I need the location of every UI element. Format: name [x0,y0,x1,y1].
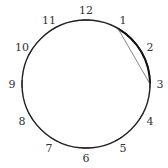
chord-1-to-3 [118,29,150,84]
hour-label-5: 5 [120,142,127,155]
tick-1 [115,27,122,31]
hour-label-8: 8 [18,115,25,128]
hour-label-3: 3 [157,78,164,91]
hour-label-9: 9 [9,78,16,91]
clock-svg: 121234567891011 [0,0,168,168]
hour-label-2: 2 [147,41,154,54]
hour-label-10: 10 [15,41,29,54]
tick-5 [115,137,122,141]
hour-label-7: 7 [46,142,53,155]
hour-label-12: 12 [79,4,93,17]
tick-2 [139,49,143,56]
hour-labels: 121234567891011 [9,4,164,165]
hour-label-6: 6 [83,152,90,165]
tick-8 [29,113,33,120]
clock-diagram: 121234567891011 [0,0,168,168]
hour-label-1: 1 [120,14,127,27]
tick-7 [51,137,58,141]
tick-11 [51,27,58,31]
tick-10 [29,49,33,56]
hour-label-11: 11 [42,14,56,27]
tick-4 [139,113,143,120]
hour-label-4: 4 [147,115,154,128]
